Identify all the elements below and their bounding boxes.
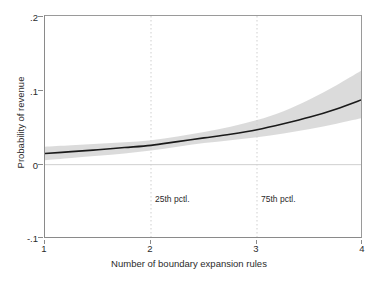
chart-svg: [45, 16, 362, 238]
confidence-band: [45, 70, 362, 161]
y-tick-mark-0: [38, 164, 43, 165]
x-tick-mark-2: [150, 240, 151, 244]
y-tick-label-0.1: .1: [4, 87, 38, 97]
y-tick-label-0: 0: [4, 161, 38, 171]
chart-figure: Probability of revenue .2 .1 0 -.1: [0, 0, 378, 282]
plot-canvas: [45, 16, 362, 238]
x-tick-mark-3: [256, 240, 257, 244]
x-tick-label-4: 4: [347, 244, 377, 254]
y-tick-label-0.2: .2: [4, 13, 38, 23]
x-tick-label-1: 1: [29, 244, 59, 254]
y-tick-mark--0.1: [38, 237, 43, 238]
x-tick-label-3: 3: [241, 244, 271, 254]
x-tick-label-2: 2: [135, 244, 165, 254]
x-tick-mark-1: [44, 240, 45, 244]
y-tick-mark-0.2: [38, 16, 43, 17]
y-tick-mark-0.1: [38, 90, 43, 91]
annotation-75th-pctl: 75th pctl.: [261, 194, 296, 204]
x-axis-ticks: 1 2 3 4: [0, 240, 378, 256]
plot-area: 25th pctl. 75th pctl.: [44, 15, 362, 238]
annotation-25th-pctl: 25th pctl.: [155, 194, 190, 204]
x-axis-title: Number of boundary expansion rules: [0, 258, 378, 269]
x-tick-mark-4: [361, 240, 362, 244]
